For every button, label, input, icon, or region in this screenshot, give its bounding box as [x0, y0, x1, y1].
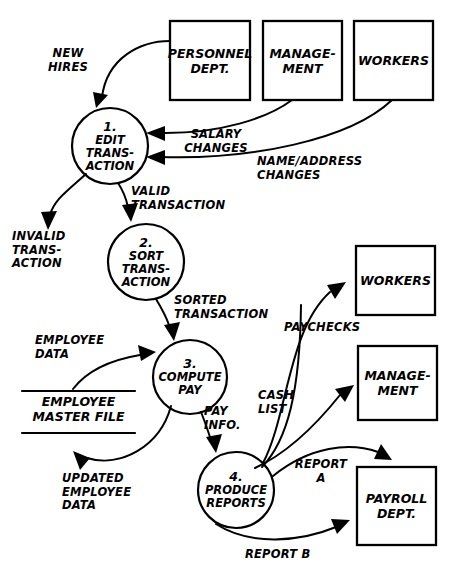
flow-arrow-new-hires[interactable] — [93, 41, 170, 108]
process-name-4: PRODUCE REPORTS — [205, 484, 267, 510]
entity-label-management-top: MANAGE- MENT — [263, 21, 342, 100]
process-label-3: 3. COMPUTE PAY — [153, 340, 227, 414]
process-label-1: 1. EDIT TRANS- ACTION — [72, 108, 148, 184]
process-name-1: EDIT TRANS- ACTION — [86, 134, 135, 173]
flow-label-report-a: REPORT A — [290, 458, 352, 485]
entity-label-workers-top: WORKERS — [354, 21, 433, 100]
flow-label-report-b: REPORT B — [245, 548, 335, 562]
process-number-3: 3. — [183, 357, 196, 371]
flow-label-new-hires: NEW HIRES — [38, 47, 98, 74]
flow-label-salary-changes: SALARY CHANGES — [178, 128, 254, 155]
flow-label-cash-list: CASH LIST — [258, 389, 306, 416]
data-store-label-employee-master-file: EMPLOYEE MASTER FILE — [20, 394, 137, 424]
process-number-4: 4. — [229, 470, 242, 484]
process-name-2: SORT TRANS- ACTION — [122, 250, 171, 289]
flow-label-valid-transaction: VALID TRANSACTION — [131, 185, 236, 212]
entity-label-management-right: MANAGE- MENT — [358, 346, 437, 420]
process-number-2: 2. — [139, 236, 152, 250]
flow-label-name-address-changes: NAME/ADDRESS CHANGES — [257, 155, 382, 182]
flow-label-updated-employee-data: UPDATED EMPLOYEE DATA — [62, 472, 162, 513]
entity-label-personnel-dept: PERSONNEL DEPT. — [170, 21, 250, 100]
process-label-2: 2. SORT TRANS- ACTION — [108, 224, 184, 300]
flow-label-invalid-transaction: INVALID TRANS- ACTION — [12, 230, 82, 271]
flow-label-sorted-transaction: SORTED TRANSACTION — [174, 294, 279, 321]
process-label-4: 4. PRODUCE REPORTS — [198, 452, 274, 528]
entity-label-payroll-dept: PAYROLL DEPT. — [357, 467, 436, 545]
process-name-3: COMPUTE PAY — [158, 371, 221, 397]
flow-label-paychecks: PAYCHECKS — [284, 321, 362, 335]
dfd-canvas: PERSONNEL DEPT. MANAGE- MENT WORKERS WOR… — [0, 0, 450, 576]
flow-label-pay-info: PAY INFO. — [204, 405, 249, 432]
flow-label-employee-data: EMPLOYEE DATA — [35, 334, 125, 361]
entity-label-workers-right: WORKERS — [356, 246, 435, 315]
process-number-1: 1. — [103, 120, 116, 134]
